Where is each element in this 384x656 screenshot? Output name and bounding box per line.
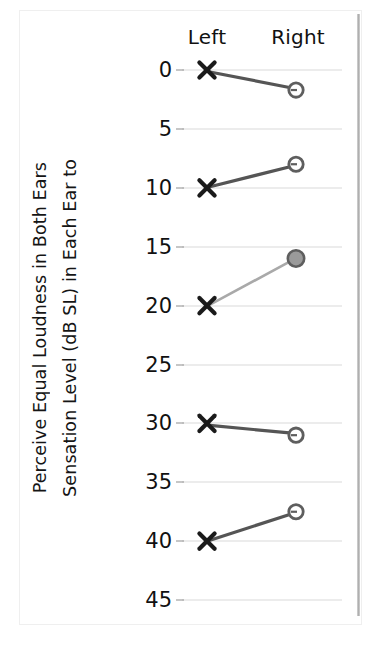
series-group bbox=[199, 62, 303, 97]
marker-left-x bbox=[199, 416, 214, 431]
marker-right-circle bbox=[289, 157, 303, 171]
series-group bbox=[199, 416, 303, 443]
data-layer bbox=[0, 0, 384, 656]
series-group bbox=[199, 157, 303, 195]
slope-chart: Perceive Equal Loudness in Both Ears Sen… bbox=[0, 0, 384, 656]
series-connector bbox=[210, 72, 292, 88]
series-connector bbox=[210, 425, 292, 433]
marker-left-x bbox=[199, 62, 214, 77]
marker-left-x bbox=[199, 534, 214, 549]
series-connector bbox=[210, 514, 292, 540]
series-group bbox=[199, 250, 304, 313]
marker-right-circle bbox=[289, 83, 303, 97]
marker-left-x bbox=[199, 298, 214, 313]
marker-right-circle bbox=[288, 250, 304, 266]
marker-right-circle bbox=[289, 505, 303, 519]
series-connector bbox=[210, 166, 292, 187]
series-group bbox=[199, 505, 303, 549]
marker-right-circle bbox=[289, 428, 303, 442]
series-connector bbox=[210, 260, 292, 304]
